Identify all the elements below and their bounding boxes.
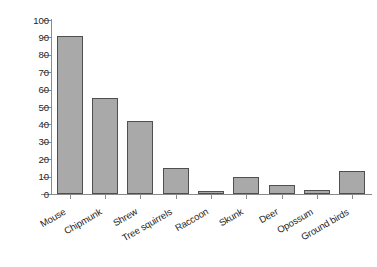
bar <box>339 171 365 194</box>
y-axis-tick-label: 70 <box>38 66 49 79</box>
x-axis-tick-mark <box>140 194 141 199</box>
bar-chart: Percent of larvae infected 0102030405060… <box>0 0 377 267</box>
y-axis-tick-label: 20 <box>38 153 49 166</box>
x-axis-tick-mark <box>70 194 71 199</box>
y-axis-tick-label: 80 <box>38 48 49 61</box>
y-axis-tick-label: 50 <box>38 101 49 114</box>
y-axis-tick-label: 100 <box>33 14 49 27</box>
y-axis-tick-label: 60 <box>38 83 49 96</box>
x-axis-tick-label: Raccoon <box>173 206 211 235</box>
y-axis-tick-label: 30 <box>38 135 49 148</box>
x-axis-tick-mark <box>282 194 283 199</box>
x-axis-tick-mark <box>105 194 106 199</box>
bar <box>92 98 118 194</box>
bar <box>269 185 295 194</box>
y-axis-tick-label: 90 <box>38 31 49 44</box>
x-axis-tick-label: Chipmunk <box>62 206 104 237</box>
x-axis-line <box>41 194 372 195</box>
y-axis-tick-label: 40 <box>38 118 49 131</box>
x-axis-tick-mark <box>246 194 247 199</box>
bar <box>304 190 330 194</box>
x-axis-tick-mark <box>176 194 177 199</box>
x-axis-tick-mark <box>352 194 353 199</box>
bar <box>233 177 259 194</box>
bar <box>127 121 153 194</box>
bar <box>198 191 224 194</box>
x-axis-tick-mark <box>317 194 318 199</box>
y-axis-tick-label: 0 <box>44 188 49 201</box>
y-axis-tick-label: 10 <box>38 170 49 183</box>
plot-area: 0102030405060708090100 <box>52 20 370 194</box>
x-axis-tick-label: Skunk <box>217 206 245 229</box>
bar <box>57 36 83 194</box>
x-axis-tick-mark <box>211 194 212 199</box>
bar <box>163 168 189 194</box>
